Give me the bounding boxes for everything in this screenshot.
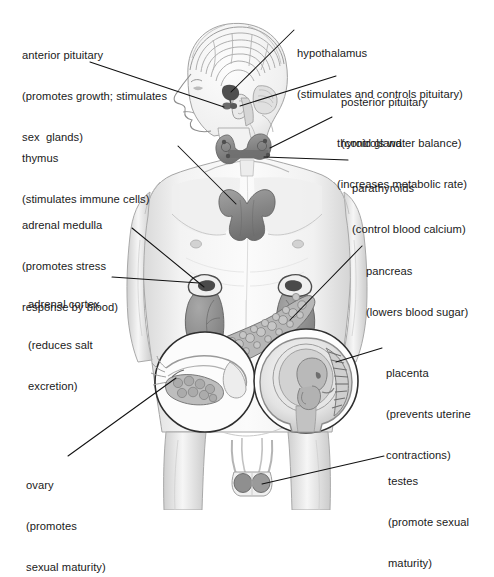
label-line: (prevents uterine	[386, 408, 471, 422]
label-line: (reduces salt	[28, 339, 100, 353]
label-line: (promotes	[26, 520, 106, 534]
head-profile	[174, 23, 287, 144]
label-ovary: ovary (promotes sexual maturity)	[26, 452, 106, 577]
label-line: posterior pituitary	[341, 96, 462, 110]
leader-thyroid-gland	[270, 117, 332, 148]
label-adrenal-cortex: adrenal cortex (reduces salt excretion)	[28, 271, 100, 407]
label-line: hypothalamus	[297, 47, 463, 61]
label-line: testes	[388, 475, 469, 489]
label-line: parathyroids	[352, 182, 466, 196]
label-testes: testes (promote sexual maturity)	[388, 448, 469, 577]
label-line: maturity)	[388, 557, 469, 571]
label-line: (lowers blood sugar)	[366, 306, 468, 320]
leader-parathyroids	[264, 157, 348, 160]
label-line: adrenal medulla	[22, 219, 118, 233]
label-line: thymus	[22, 152, 149, 166]
label-line: (control blood calcium)	[352, 223, 466, 237]
label-line: placenta	[386, 367, 471, 381]
label-line: excretion)	[28, 380, 100, 394]
label-line: (promote sexual	[388, 516, 469, 530]
testes-and-scrotum	[232, 438, 273, 496]
label-parathyroids: parathyroids (control blood calcium)	[352, 155, 466, 250]
uterus-placenta-inset-circle	[254, 329, 358, 433]
label-line: anterior pituitary	[22, 49, 167, 63]
label-line: ovary	[26, 479, 106, 493]
label-line: (promotes growth; stimulates	[22, 90, 167, 104]
label-line: thyroid gland	[337, 137, 467, 151]
label-line: pancreas	[366, 265, 468, 279]
label-line: adrenal cortex	[28, 298, 100, 312]
label-line: sexual maturity)	[26, 561, 106, 575]
label-pancreas: pancreas (lowers blood sugar)	[366, 238, 468, 333]
legs	[164, 432, 331, 510]
